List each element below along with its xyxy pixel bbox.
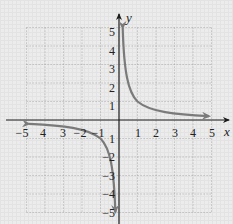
y-tick: −2 <box>102 150 115 164</box>
x-axis-label: x <box>223 124 230 139</box>
x-tick: 4 <box>190 126 196 140</box>
y-tick: −5 <box>102 206 115 220</box>
x-tick: 3 <box>60 126 66 140</box>
y-tick: 5 <box>109 25 115 39</box>
coordinate-plane: x y −5 4 3 −2 −1 1 2 3 4 5 5 4 3 2 1 1 −… <box>0 0 233 224</box>
x-tick: −2 <box>74 126 87 140</box>
y-tick-labels: 5 4 3 2 1 1 −2 −3 −4 −5 <box>102 25 115 220</box>
x-tick: 5 <box>209 126 215 140</box>
y-tick: −4 <box>102 187 115 201</box>
curve-positive-branch <box>123 28 209 116</box>
x-tick: −1 <box>92 126 105 140</box>
x-tick: 2 <box>153 126 159 140</box>
y-tick: 1 <box>109 99 115 113</box>
hyperbola-graph: x y −5 4 3 −2 −1 1 2 3 4 5 5 4 3 2 1 1 −… <box>0 0 233 224</box>
x-tick: 1 <box>135 126 141 140</box>
x-tick: −5 <box>16 126 29 140</box>
y-tick: 1 <box>109 132 115 146</box>
y-tick: 3 <box>109 62 115 76</box>
y-tick: 2 <box>109 81 115 95</box>
x-tick-labels: −5 4 3 −2 −1 1 2 3 4 5 <box>16 126 215 140</box>
y-axis-label: y <box>124 10 132 25</box>
y-tick: −3 <box>102 169 115 183</box>
x-tick: 3 <box>172 126 178 140</box>
x-tick: 4 <box>40 126 46 140</box>
y-tick: 4 <box>109 44 115 58</box>
